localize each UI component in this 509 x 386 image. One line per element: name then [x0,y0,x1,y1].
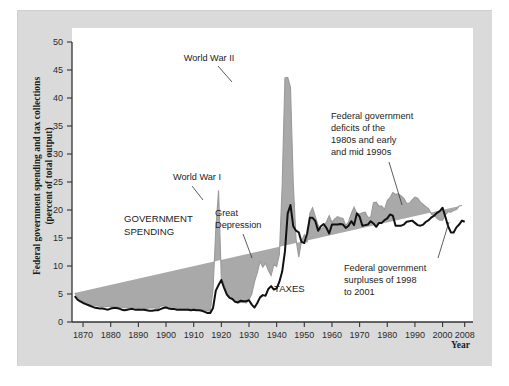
y-tick-label: 15 [53,233,63,243]
x-tick-label: 1870 [73,330,93,340]
x-tick-label: 1940 [267,330,287,340]
x-tick-label: 1970 [350,330,370,340]
annotation-world-war-1: World War I [173,172,221,182]
annotation-surpluses-line2: surpluses of 1998 [344,275,417,285]
annotation-deficits-line3: 1980s and early [331,135,397,145]
x-tick-label: 1950 [294,330,314,340]
y-tick-label: 0 [58,317,63,327]
x-tick-label: 1910 [184,330,204,340]
annotation-deficits-line4: and mid 1990s [331,147,392,157]
y-tick-label: 5 [58,289,63,299]
x-tick-label: 1890 [128,330,148,340]
annotation-deficits-line1: Federal government [331,111,414,121]
annotation-great-depression-line2: Depression [215,220,261,230]
y-tick-label: 40 [53,93,63,103]
annotation-great-depression-line1: Great [215,208,238,218]
y-tick-label: 10 [53,261,63,271]
x-tick-label: 1960 [322,330,342,340]
y-tick-label: 45 [53,65,63,75]
x-tick-label: 1880 [101,330,121,340]
x-tick-label: 1990 [405,330,425,340]
x-tick-label: 2000 [433,330,453,340]
x-tick-label: 1930 [239,330,259,340]
annotation-taxes: TAXES [274,283,305,294]
y-tick-label: 20 [53,205,63,215]
y-tick-label: 35 [53,121,63,131]
x-tick-label: 1900 [156,330,176,340]
x-tick-label: 1980 [377,330,397,340]
annotation-government-spending-line2: SPENDING [124,226,174,237]
x-tick-label: 1920 [211,330,231,340]
annotation-surpluses-line3: to 2001 [344,287,375,297]
annotation-world-war-2: World War II [184,53,235,63]
y-axis-ticks: 05101520253035404550 [53,37,72,327]
y-tick-label: 30 [53,149,63,159]
x-axis-ticks: 1870188018901900191019201930194019501960… [73,322,475,340]
y-tick-label: 50 [53,37,63,47]
y-axis-title-line1: Federal government spending and tax coll… [32,77,42,275]
y-axis-title: Federal government spending and tax coll… [32,77,55,275]
x-axis-title: Year [451,340,471,350]
annotation-surpluses-line1: Federal government [344,263,427,273]
x-tick-label: 2008 [455,330,475,340]
annotation-deficits-line2: deficits of the [331,123,385,133]
chart-figure: Federal government spending and tax coll… [0,0,509,386]
y-tick-label: 25 [53,177,63,187]
annotation-government-spending-line1: GOVERNMENT [124,213,193,224]
